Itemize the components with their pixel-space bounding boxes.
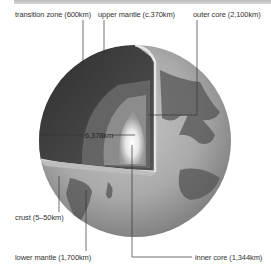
label-upper-mantle: upper mantle (c.370km) [98,10,175,19]
label-transition-zone: transition zone (600km) [15,10,91,19]
label-lower-mantle: lower mantle (1,700km) [15,253,91,262]
label-inner-core: inner core (1,344km) [195,253,262,262]
earth-cutaway-diagram [0,0,271,272]
label-crust: crust (5–50km) [15,213,64,222]
label-outer-core: outer core (2,100km) [193,10,261,19]
label-radius: 6,378km [85,131,113,140]
